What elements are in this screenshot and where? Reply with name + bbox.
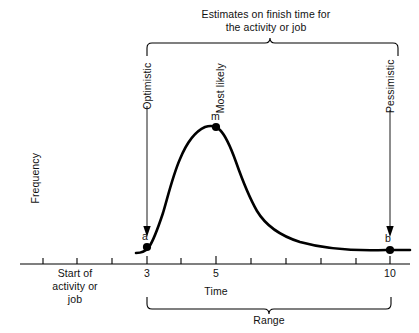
top-annotation-line2: the activity or job — [186, 21, 346, 34]
estimates-brace — [147, 38, 398, 56]
point-label-m: m — [211, 110, 220, 123]
point-a — [143, 243, 151, 251]
y-axis-label: Frequency — [29, 138, 42, 218]
x-tick-label-10: 10 — [380, 267, 400, 280]
range-brace — [147, 297, 391, 314]
top-annotation-line1: Estimates on finish time for — [186, 8, 346, 21]
origin-note-line2: activity or — [35, 280, 115, 293]
point-b — [386, 246, 394, 254]
x-axis-label: Time — [196, 285, 236, 298]
pessimistic-label: Pessimistic — [384, 51, 397, 121]
x-tick-label-3: 3 — [137, 267, 157, 280]
x-tick-label-5: 5 — [206, 267, 226, 280]
point-label-b: b — [385, 232, 391, 245]
pert-distribution-figure: Estimates on finish time for the activit… — [0, 0, 419, 333]
x-axis-ticks — [43, 256, 390, 264]
point-m — [212, 123, 220, 131]
origin-note-line3: job — [35, 293, 115, 306]
origin-note-line1: Start of — [35, 267, 115, 280]
frequency-distribution-curve — [136, 126, 410, 253]
optimistic-label: Optimistic — [141, 51, 154, 121]
point-label-a: a — [142, 230, 148, 243]
range-label: Range — [239, 314, 299, 327]
